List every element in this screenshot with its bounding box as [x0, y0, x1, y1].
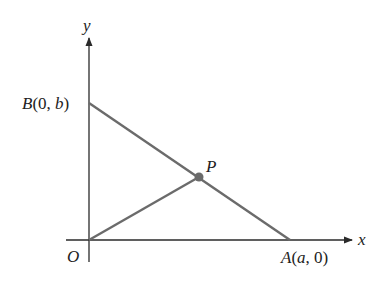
- origin-label: O: [67, 247, 79, 266]
- point-p-label: P: [205, 157, 216, 176]
- y-axis-label: y: [81, 16, 91, 35]
- point-a-label: A(a, 0): [280, 248, 328, 267]
- diagram-canvas: y x O B(0, b) A(a, 0) P: [0, 0, 379, 285]
- point-p: [195, 173, 204, 182]
- segment-ba: [89, 103, 290, 240]
- segment-op: [89, 177, 199, 240]
- x-axis-label: x: [357, 230, 366, 249]
- point-b-label: B(0, b): [22, 94, 69, 113]
